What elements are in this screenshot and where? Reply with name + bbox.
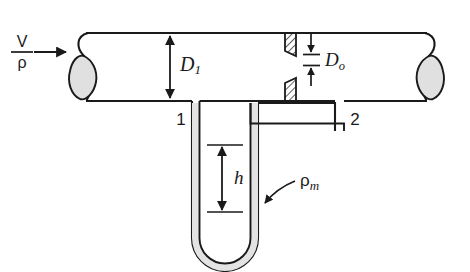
u-tube-manometer bbox=[192, 103, 258, 271]
orifice-plate-upper-segment bbox=[285, 33, 296, 56]
diagram-canvas: D1 Do 1 2 V ρ h ρm bbox=[0, 0, 470, 272]
tap-one-label: 1 bbox=[176, 110, 185, 129]
pipe-body-fill bbox=[88, 33, 425, 101]
orifice-plate-lower-segment bbox=[285, 78, 296, 101]
right-pipe-end-opening bbox=[417, 56, 444, 100]
manometer-outer-wall bbox=[192, 103, 258, 271]
pressure-tap-two-line bbox=[251, 103, 345, 131]
velocity-label: V bbox=[17, 33, 28, 50]
orifice-meter-diagram: D1 Do 1 2 V ρ h ρm bbox=[0, 0, 470, 272]
manometer-fluid-leader-arrow bbox=[265, 181, 295, 203]
manometer-density-label: ρm bbox=[300, 171, 319, 193]
tap-two-label: 2 bbox=[350, 110, 359, 129]
density-label: ρ bbox=[17, 54, 26, 71]
left-pipe-end-opening bbox=[69, 56, 96, 100]
manometer-height-label: h bbox=[234, 167, 244, 188]
horizontal-pipe bbox=[86, 33, 427, 101]
